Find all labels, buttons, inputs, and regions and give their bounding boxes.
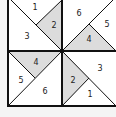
label-tr-6: 6 <box>76 9 81 18</box>
label-bl-4: 4 <box>33 58 38 67</box>
label-br-1: 1 <box>87 90 92 99</box>
label-tl-3: 3 <box>24 32 29 41</box>
label-tl-1: 1 <box>32 3 37 12</box>
label-bl-5: 5 <box>18 76 23 85</box>
label-tl-2: 2 <box>51 21 56 30</box>
label-tr-5: 5 <box>104 20 109 29</box>
label-tr-4: 4 <box>86 35 91 44</box>
center-dot <box>60 49 64 53</box>
label-br-3: 3 <box>97 64 102 73</box>
triangle-puzzle-diagram: 1 2 3 6 5 4 4 5 6 3 2 1 <box>0 0 116 117</box>
label-bl-6: 6 <box>42 87 47 96</box>
label-br-2: 2 <box>70 76 75 85</box>
